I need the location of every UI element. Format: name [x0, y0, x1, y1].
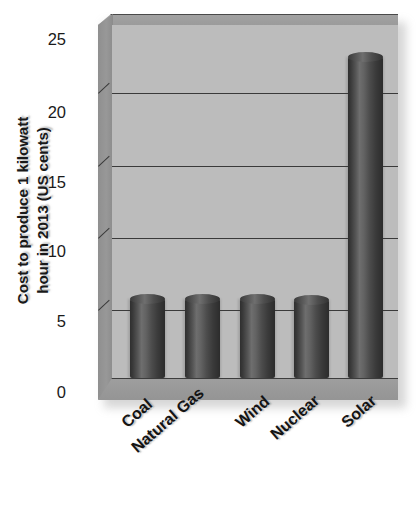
bar-cap-coal — [130, 294, 165, 304]
bar-solar[interactable] — [348, 57, 383, 378]
bar-chart-figure: Cost to produce 1 kilowatt hour in 2013 … — [0, 0, 418, 507]
bar-cap-natural-gas — [185, 294, 220, 304]
bar-cap-wind — [240, 294, 275, 304]
y-tick-label-15: 15 — [26, 173, 66, 192]
y-tick-label-0: 0 — [26, 383, 66, 402]
bar-natural-gas[interactable] — [185, 299, 220, 378]
y-tick-label-25: 25 — [26, 30, 66, 49]
y-tick-label-20: 20 — [26, 103, 66, 122]
y-axis-title-line-1: Cost to produce 1 kilowatt — [14, 116, 34, 303]
y-tick-label-5: 5 — [26, 312, 66, 331]
bar-cap-solar — [348, 52, 383, 62]
plot-area — [98, 14, 398, 400]
y-axis-title: Cost to produce 1 kilowatt hour in 2013 … — [0, 0, 66, 420]
y-axis-title-line-2: hour in 2013 (US cents) — [33, 116, 53, 303]
bar-coal[interactable] — [130, 299, 165, 378]
bars-layer — [98, 14, 398, 378]
y-tick-label-10: 10 — [26, 242, 66, 261]
bar-wind[interactable] — [240, 299, 275, 378]
bar-cap-nuclear — [294, 295, 329, 305]
bar-nuclear[interactable] — [294, 300, 329, 378]
